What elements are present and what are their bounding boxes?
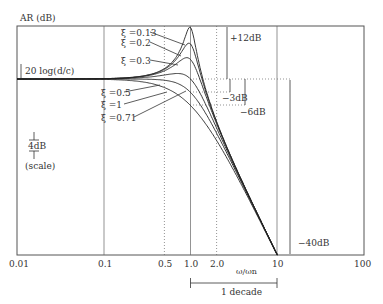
- scale-bar-label: 4dB: [28, 141, 46, 151]
- x-tick-2: 2.0: [210, 259, 224, 269]
- x-tick-05: 0.5: [158, 259, 172, 269]
- curve-zeta-1: [17, 79, 277, 255]
- baseline-label: 20 log(d/c): [25, 66, 74, 76]
- peak-label: +12dB: [230, 33, 261, 43]
- x-tick-100: 100: [354, 259, 371, 269]
- y-axis-label: AR (dB): [20, 13, 56, 23]
- x-axis-label: ω/ωn: [236, 267, 257, 277]
- minus3-label: −3dB: [222, 93, 248, 103]
- x-tick-01: 0.1: [98, 259, 112, 269]
- x-tick-10: 10: [272, 259, 283, 269]
- zeta-013-label: ξ =0.13: [121, 28, 156, 38]
- x-tick-001: 0.01: [9, 259, 29, 269]
- zeta-05-label: ξ =0.5: [101, 88, 131, 98]
- decade-label: 1 decade: [221, 287, 262, 297]
- x-tick-1: 1.0: [184, 259, 198, 269]
- minus6-label: −6dB: [240, 107, 266, 117]
- curve-zeta-0-71: [17, 79, 277, 255]
- zeta-071-label: ξ =0.71: [101, 113, 136, 123]
- zeta-1-label: ξ =1: [101, 100, 122, 110]
- zeta-02-label: ξ =0.2: [121, 38, 151, 48]
- zeta-03-label: ξ =0.3: [121, 56, 151, 66]
- minus40-label: −40dB: [298, 238, 329, 248]
- scale-label: (scale): [25, 161, 55, 171]
